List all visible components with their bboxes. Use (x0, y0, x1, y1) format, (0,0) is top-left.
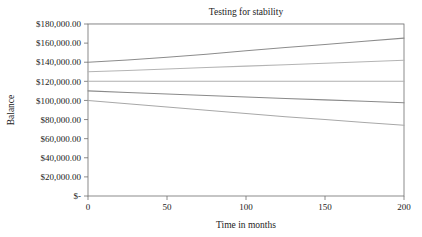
chart-title: Testing for stability (209, 7, 284, 17)
x-tick-label: 200 (397, 202, 411, 212)
x-axis-ticks: 050100150200 (86, 196, 412, 212)
x-tick-label: 100 (239, 202, 253, 212)
y-tick-label: $100,000.00 (36, 96, 82, 106)
y-axis-title: Balance (6, 95, 16, 126)
y-tick-label: $160,000.00 (36, 38, 82, 48)
y-axis-ticks: $-$20,000.00$40,000.00$60,000.00$80,000.… (36, 19, 88, 201)
chart-page: Testing for stability Balance Time in mo… (0, 0, 422, 237)
y-tick-label: $40,000.00 (41, 153, 82, 163)
line-chart: Testing for stability Balance Time in mo… (0, 0, 422, 237)
y-tick-label: $60,000.00 (41, 134, 82, 144)
y-tick-label: $140,000.00 (36, 57, 82, 67)
x-tick-label: 0 (86, 202, 91, 212)
y-tick-label: $- (74, 191, 82, 201)
x-tick-label: 150 (318, 202, 332, 212)
y-tick-label: $20,000.00 (41, 172, 82, 182)
y-tick-label: $120,000.00 (36, 77, 82, 87)
x-axis-title: Time in months (216, 220, 276, 230)
plot-area-frame (88, 24, 404, 196)
y-tick-label: $180,000.00 (36, 19, 82, 29)
y-tick-label: $80,000.00 (41, 115, 82, 125)
x-tick-label: 50 (163, 202, 173, 212)
